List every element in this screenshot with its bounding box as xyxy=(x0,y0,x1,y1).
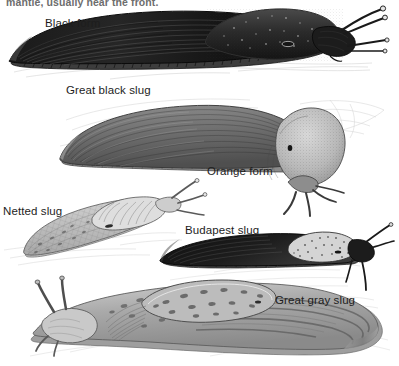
gray-slug-upper-tentacle-2 xyxy=(62,279,66,309)
illustration-canvas xyxy=(0,0,399,366)
gray-slug-head xyxy=(42,308,98,342)
black-slug-pneumostome xyxy=(282,41,294,46)
label-orange-form: Orange form xyxy=(207,165,273,178)
gray-slug-pneumostome xyxy=(255,301,261,304)
figure-great-gray-slug xyxy=(30,276,390,356)
gray-slug-eye-1 xyxy=(35,280,40,284)
label-netted-slug: Netted slug xyxy=(3,205,62,218)
label-black-form: Black form xyxy=(45,17,100,30)
label-budapest-slug: Budapest slug xyxy=(185,224,259,237)
black-slug-eye-2 xyxy=(383,15,388,20)
black-slug-eye-1 xyxy=(380,6,385,11)
budapest-slug-lower-tentacle-1 xyxy=(362,261,366,290)
gray-slug-upper-tentacle-1 xyxy=(38,283,54,312)
figure-great-black-slug-orange-form xyxy=(60,99,384,216)
gray-slug-eye-2 xyxy=(60,276,65,280)
netted-slug-lower-tentacle xyxy=(177,210,204,215)
budapest-slug-upper-tentacle-1 xyxy=(366,225,390,242)
netted-slug-upper-tentacle-1 xyxy=(172,181,196,198)
netted-slug-mantle xyxy=(92,197,166,230)
orange-slug-upper-tentacle-2 xyxy=(306,193,310,216)
orange-slug-lower-tentacle-2 xyxy=(316,186,344,193)
netted-slug-upper-tentacle-2 xyxy=(178,195,204,203)
label-great-black-slug: Great black slug xyxy=(66,84,151,97)
orange-slug-upper-tentacle-1 xyxy=(284,192,296,214)
orange-slug-pneumostome xyxy=(288,145,293,151)
clipped-body-text: mantle, usually near the front. xyxy=(6,0,158,9)
slug-illustration-plate: mantle, usually near the front. Black fo… xyxy=(0,0,399,366)
orange-slug-lower-tentacle-1 xyxy=(313,190,336,202)
budapest-slug-pneumostome xyxy=(335,251,341,254)
label-great-gray-slug: Great gray slug xyxy=(275,294,355,307)
budapest-slug-upper-tentacle-2 xyxy=(370,241,394,248)
budapest-slug-head xyxy=(348,239,374,262)
